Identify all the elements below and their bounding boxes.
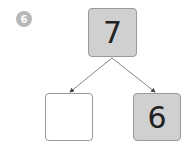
arrow-right: [112, 58, 155, 92]
arrow-left: [70, 58, 112, 92]
part-left-answer-box[interactable]: [45, 93, 93, 141]
whole-box: 7: [88, 8, 137, 57]
part-right-box: 6: [133, 93, 181, 141]
